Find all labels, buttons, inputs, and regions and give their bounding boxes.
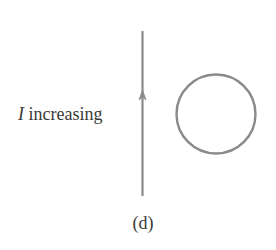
figure-caption: (d) [133, 213, 154, 234]
current-description: increasing [24, 104, 102, 124]
diagram-canvas: I increasing (d) [0, 0, 276, 250]
conducting-loop [177, 75, 256, 154]
current-label: I increasing [17, 104, 102, 124]
